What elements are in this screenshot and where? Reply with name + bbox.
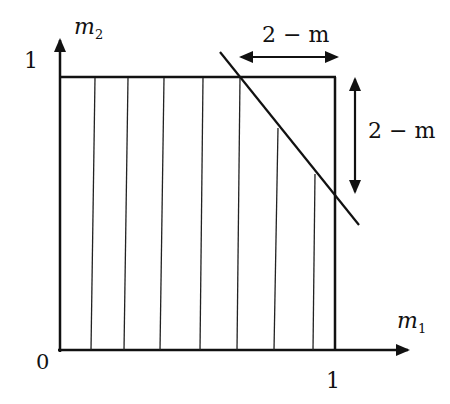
diagram-canvas (0, 0, 450, 404)
x-tick-1: 1 (326, 368, 340, 393)
vertical-height-annotation: 2 − m (368, 118, 435, 143)
x-axis-label: m1 (397, 308, 426, 336)
horizontal-width-annotation: 2 − m (262, 22, 329, 47)
hatch-lines (91, 78, 315, 350)
y-tick-1: 1 (24, 48, 38, 73)
origin-label: 0 (36, 350, 49, 374)
y-axis-label: m2 (74, 14, 103, 42)
